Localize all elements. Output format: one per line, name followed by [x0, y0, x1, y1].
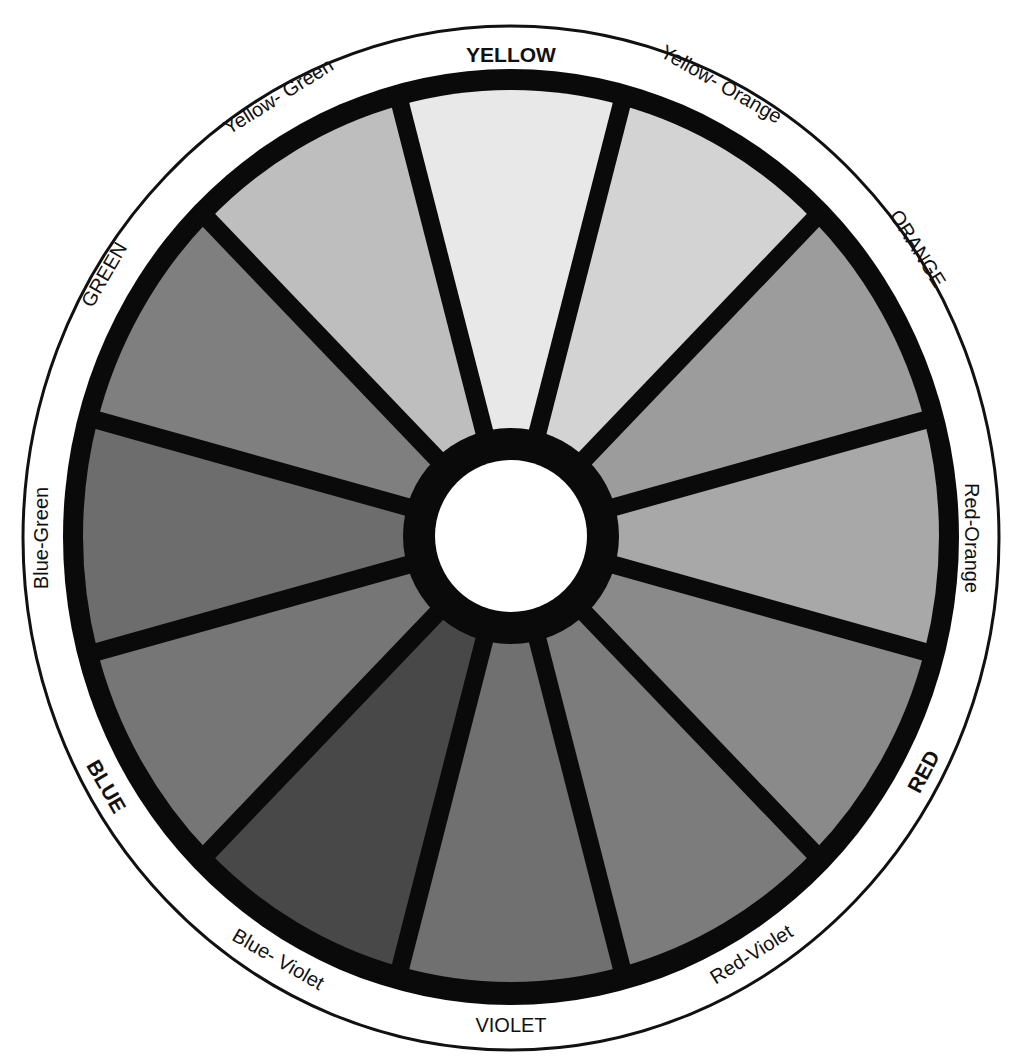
- color-wheel: YELLOW Yellow- Orange ORANGE Red-Orange …: [0, 0, 1014, 1061]
- label-violet: VIOLET: [475, 1014, 546, 1036]
- hub-center: [435, 460, 587, 612]
- label-red-orange: Red-Orange: [961, 483, 983, 593]
- label-blue-green: Blue-Green: [30, 487, 52, 589]
- label-yellow: YELLOW: [466, 43, 556, 66]
